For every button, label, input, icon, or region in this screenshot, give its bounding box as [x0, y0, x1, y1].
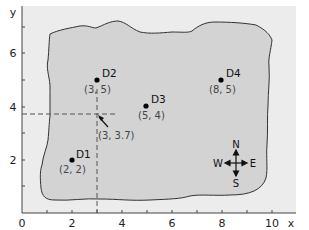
- point-marker: [143, 103, 148, 108]
- y-tick-label-6: 6: [10, 47, 17, 60]
- point-coords: (5, 4): [138, 110, 165, 121]
- point-coords: (3, 5): [84, 84, 111, 95]
- point-name: D1: [76, 148, 91, 160]
- x-tick-label-8: 8: [219, 217, 226, 230]
- point-name: D4: [226, 67, 241, 79]
- point-marker: [218, 77, 223, 82]
- point-marker: [94, 77, 99, 82]
- diagram-canvas: 0 2 4 6 8 10 x 2 4 6 y (3, 3.7) D1 (2, 2…: [0, 0, 309, 230]
- point-coords: (2, 2): [59, 164, 86, 175]
- compass-west: W: [213, 158, 223, 169]
- x-tick-label-0: 0: [19, 217, 26, 230]
- x-tick-label-6: 6: [169, 217, 176, 230]
- compass-south: S: [233, 178, 239, 189]
- point-coords: (8, 5): [209, 84, 236, 95]
- annotation-label: (3, 3.7): [98, 130, 135, 141]
- y-axis-label: y: [10, 6, 17, 19]
- y-tick-label-4: 4: [10, 101, 17, 114]
- point-name: D3: [151, 93, 166, 105]
- compass-east: E: [250, 158, 256, 169]
- compass-north: N: [232, 139, 239, 150]
- x-tick-label-10: 10: [265, 217, 279, 230]
- point-marker: [69, 157, 74, 162]
- y-tick-label-2: 2: [10, 154, 17, 167]
- coordinate-diagram: 0 2 4 6 8 10 x 2 4 6 y (3, 3.7) D1 (2, 2…: [0, 0, 309, 230]
- x-tick-label-2: 2: [69, 217, 76, 230]
- point-name: D2: [102, 67, 117, 79]
- x-axis-label: x: [288, 217, 295, 230]
- x-tick-label-4: 4: [119, 217, 126, 230]
